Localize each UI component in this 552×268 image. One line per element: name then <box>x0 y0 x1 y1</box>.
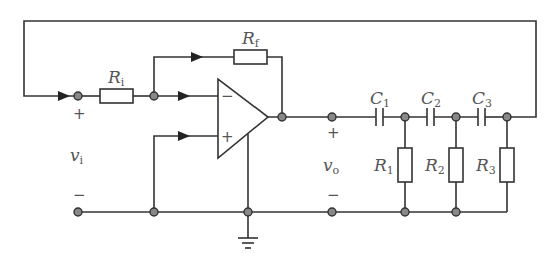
input-plus-sign: + <box>73 105 86 123</box>
label-c3: C3 <box>472 88 492 110</box>
label-c2: C2 <box>421 88 441 110</box>
input-minus-sign: − <box>73 186 86 204</box>
output-plus-terminal <box>328 113 336 121</box>
ground-node-r1 <box>401 208 409 216</box>
label-r3: R3 <box>475 155 496 177</box>
resistor-ri <box>100 89 133 103</box>
arrow-icon <box>58 91 70 101</box>
ground-node-2 <box>244 208 252 216</box>
junction-node <box>150 92 158 100</box>
label-r1: R1 <box>373 155 394 177</box>
output-minus-sign: − <box>327 186 340 204</box>
capacitor-c1 <box>376 108 383 126</box>
output-plus-sign: + <box>327 124 340 142</box>
label-vi: vi <box>70 145 84 167</box>
capacitor-c2 <box>427 108 434 126</box>
input-plus-terminal <box>74 92 82 100</box>
label-ri: Ri <box>107 67 125 89</box>
label-c1: C1 <box>370 88 390 110</box>
ground-node-r2 <box>452 208 460 216</box>
ground-icon <box>238 212 258 248</box>
label-vo: vo <box>323 155 340 177</box>
arrow-icon <box>178 131 190 141</box>
resistor-rf <box>234 50 267 64</box>
output-minus-terminal <box>328 208 336 216</box>
circuit-diagram: − + Ri <box>0 0 552 268</box>
output-node <box>278 113 286 121</box>
node-c2-c3 <box>452 113 460 121</box>
label-rf: Rf <box>241 28 260 50</box>
capacitor-c3 <box>478 108 485 126</box>
op-amp-inverting-sign: − <box>221 87 234 105</box>
label-r2: R2 <box>424 155 445 177</box>
node-c3-end <box>503 113 511 121</box>
noninverting-input-wire <box>154 136 218 212</box>
resistor-r3 <box>500 148 514 182</box>
arrow-icon <box>191 52 203 62</box>
resistor-r2 <box>449 148 463 182</box>
input-minus-terminal <box>74 208 82 216</box>
resistor-r1 <box>398 148 412 182</box>
arrow-icon <box>178 91 190 101</box>
ground-node-1 <box>150 208 158 216</box>
rf-to-output-wire <box>267 57 282 117</box>
node-c1-c2 <box>401 113 409 121</box>
op-amp-noninverting-sign: + <box>221 128 234 146</box>
